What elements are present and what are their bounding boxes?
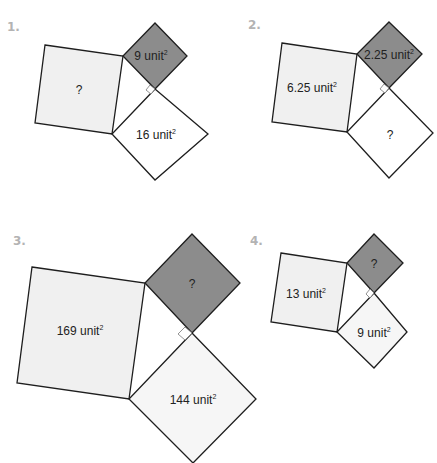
light-square-label: 144 unit2	[170, 393, 217, 407]
white-square-label: ?	[387, 128, 394, 142]
hypotenuse-label: 13 unit2	[286, 287, 326, 301]
problem-number: 4.	[250, 234, 263, 248]
light-square-label: 9 unit2	[357, 326, 390, 340]
dark-square-label: 9 unit2	[134, 49, 167, 63]
hypotenuse-label: 169 unit2	[57, 324, 104, 338]
dark-square-label: ?	[371, 257, 378, 271]
problem-4: 4. 13 unit2 ? 9 unit2	[250, 234, 407, 368]
problem-1: 1. ? 9 unit2 16 unit2	[7, 20, 208, 180]
hypotenuse-label: 6.25 unit2	[287, 81, 337, 95]
dark-square-label: ?	[189, 277, 196, 291]
problem-number: 3.	[13, 234, 26, 248]
hypotenuse-label: ?	[76, 83, 83, 97]
problem-2: 2. 6.25 unit2 2.25 unit2 ?	[248, 18, 433, 178]
white-square-label: 16 unit2	[136, 128, 176, 142]
pythagorean-diagrams: 1. ? 9 unit2 16 unit2 2. 6.25 unit2 2.25…	[0, 0, 437, 463]
problem-3: 3. 169 unit2 ? 144 unit2	[13, 234, 256, 463]
problem-number: 1.	[7, 20, 20, 34]
dark-square-label: 2.25 unit2	[364, 48, 414, 62]
problem-number: 2.	[248, 18, 261, 32]
